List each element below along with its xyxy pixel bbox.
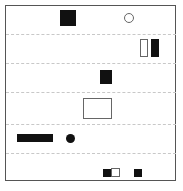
row-6-filled-square-3 <box>134 169 142 177</box>
row-4-outline-rect-1 <box>83 98 112 119</box>
row-5-filled-bar-1 <box>17 134 53 142</box>
row-3-filled-square-1 <box>100 70 112 84</box>
row-1-filled-square-1 <box>60 10 76 26</box>
row-6-outline-square-2 <box>111 168 120 177</box>
outer-frame <box>5 5 176 181</box>
dashed-separator-3 <box>6 92 176 93</box>
dashed-separator-4 <box>6 124 176 125</box>
dashed-separator-1 <box>6 34 176 35</box>
row-2-filled-rect-2 <box>151 39 159 57</box>
dashed-separator-2 <box>6 63 176 64</box>
row-1-outline-circle-2 <box>124 13 134 23</box>
dashed-separator-5 <box>6 153 176 154</box>
row-6-filled-square-1 <box>103 169 111 177</box>
row-5-filled-circle-2 <box>66 134 75 143</box>
row-2-outline-rect-1 <box>140 39 148 57</box>
